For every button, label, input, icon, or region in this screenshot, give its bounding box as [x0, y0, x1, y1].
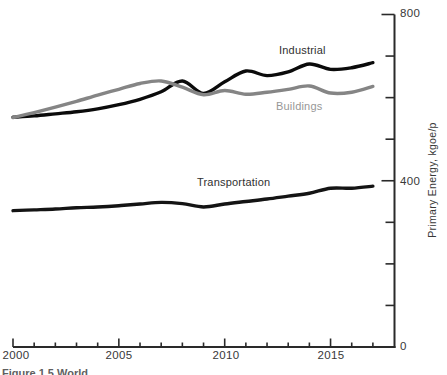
y-axis-title: Primary Energy, kgoe/p: [426, 105, 440, 255]
figure-caption-clipped: Figure 1.5 World: [2, 368, 302, 375]
series-line-transportation: [13, 186, 373, 211]
y-tick-label-0: 0: [400, 340, 407, 352]
x-tick-label-2000: 2000: [0, 349, 36, 361]
series-label-buildings: Buildings: [276, 100, 322, 112]
x-tick-label-2005: 2005: [99, 349, 139, 361]
y-tick-label-400: 400: [400, 175, 420, 187]
y-tick-label-800: 800: [400, 7, 420, 19]
y-axis: [382, 15, 395, 349]
chart-figure: 800 400 0 2000 2005 2010 2015 Industrial…: [0, 0, 447, 375]
series-lines: [13, 63, 373, 211]
series-label-transportation: Transportation: [197, 176, 270, 188]
x-axis: [13, 339, 396, 348]
x-tick-label-2010: 2010: [206, 349, 246, 361]
series-label-industrial: Industrial: [279, 44, 326, 56]
x-tick-label-2015: 2015: [311, 349, 351, 361]
